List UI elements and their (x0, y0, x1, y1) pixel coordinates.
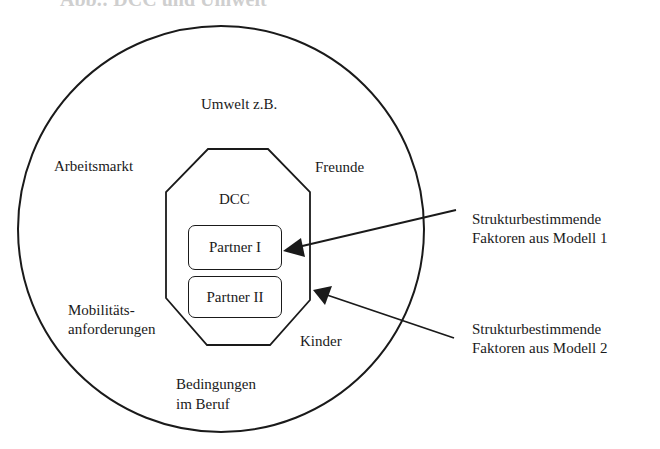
partner-2-box: Partner II (188, 276, 282, 318)
annotation-model-2-line1: Strukturbestimmende (472, 320, 601, 339)
arrow-model-1 (283, 210, 456, 257)
label-kinder: Kinder (300, 332, 342, 351)
label-bedingungen-line2: im Beruf (176, 395, 230, 414)
label-mobilitaet-line1: Mobilitäts- (68, 301, 135, 320)
partner-1-label: Partner I (209, 239, 261, 256)
label-bedingungen-line1: Bedingungen (176, 375, 256, 394)
annotation-model-2-line2: Faktoren aus Modell 2 (472, 339, 607, 358)
label-dcc: DCC (219, 190, 250, 209)
label-mobilitaet-line2: anforderungen (68, 320, 155, 339)
annotation-model-1-line2: Faktoren aus Modell 1 (472, 229, 607, 248)
arrowhead-icon (283, 238, 305, 257)
annotation-model-1-line1: Strukturbestimmende (472, 210, 601, 229)
label-arbeitsmarkt: Arbeitsmarkt (54, 157, 133, 176)
partner-1-box: Partner I (188, 225, 282, 270)
label-umwelt: Umwelt z.B. (201, 95, 277, 114)
arrow-model-2 (313, 286, 454, 338)
partner-2-label: Partner II (206, 289, 263, 306)
label-freunde: Freunde (315, 158, 364, 177)
